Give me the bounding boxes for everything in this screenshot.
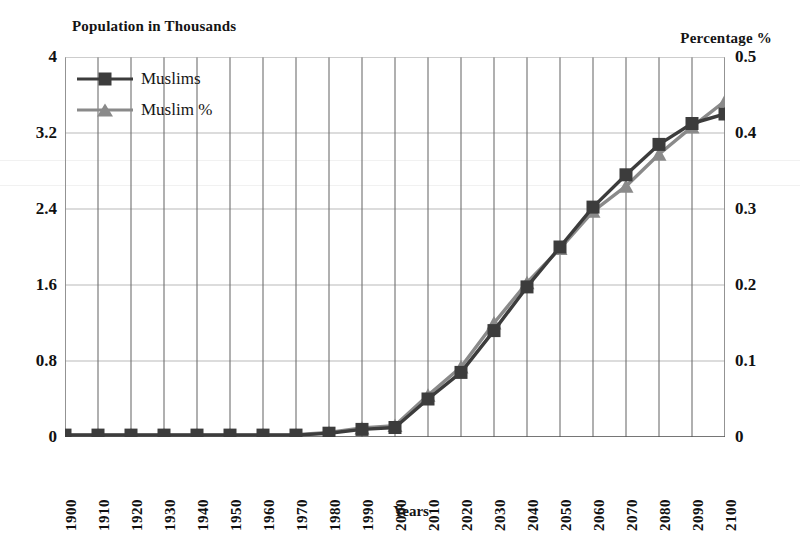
left-tick-label: 1.6 <box>36 275 57 295</box>
right-tick-label: 0.3 <box>735 199 756 219</box>
left-tick-label: 2.4 <box>36 199 57 219</box>
marker-square <box>158 429 171 437</box>
legend-label-muslim-percent: Muslim % <box>141 100 212 120</box>
marker-square <box>488 324 501 337</box>
marker-square <box>686 117 699 130</box>
left-axis-title: Population in Thousands <box>72 18 236 35</box>
marker-square <box>389 421 402 434</box>
left-tick-label: 0.8 <box>36 351 57 371</box>
right-tick-label: 0 <box>735 427 744 447</box>
marker-square <box>356 423 369 436</box>
marker-square <box>554 241 567 254</box>
marker-square <box>521 280 534 293</box>
marker-square <box>653 138 666 151</box>
left-axis-tick-labels: 00.81.62.43.24 <box>0 57 57 437</box>
marker-square <box>92 429 105 437</box>
marker-square <box>587 201 600 214</box>
marker-square <box>257 429 270 437</box>
plot-area: Muslims Muslim % <box>65 57 725 437</box>
marker-square <box>224 429 237 437</box>
chart-container: Population in Thousands Percentage % 00.… <box>0 0 800 549</box>
marker-square <box>620 168 633 181</box>
right-tick-label: 0.5 <box>735 47 756 67</box>
legend-label-muslims: Muslims <box>141 69 201 89</box>
right-axis-tick-labels: 00.10.20.30.40.5 <box>735 57 795 437</box>
x-axis-tick-labels: 1900191019201930194019501960197019801990… <box>65 443 725 501</box>
marker-square <box>719 108 726 121</box>
legend-marker-triangle-icon <box>77 103 133 117</box>
left-tick-label: 0 <box>49 427 58 447</box>
right-tick-label: 0.1 <box>735 351 756 371</box>
marker-square <box>125 429 138 437</box>
right-tick-label: 0.2 <box>735 275 756 295</box>
marker-square <box>290 429 303 437</box>
legend-item-muslim-percent[interactable]: Muslim % <box>77 94 227 125</box>
left-tick-label: 4 <box>49 47 58 67</box>
marker-square <box>455 366 468 379</box>
marker-square <box>65 429 72 437</box>
x-axis-title: Years <box>0 503 800 520</box>
right-axis-title: Percentage % <box>680 30 772 47</box>
chart-legend: Muslims Muslim % <box>77 63 227 125</box>
x-axis-title-text: Years <box>393 503 429 519</box>
marker-square <box>191 429 204 437</box>
right-tick-label: 0.4 <box>735 123 756 143</box>
legend-item-muslims[interactable]: Muslims <box>77 63 227 94</box>
left-tick-label: 3.2 <box>36 123 57 143</box>
legend-marker-square-icon <box>77 72 133 86</box>
marker-square <box>422 393 435 406</box>
marker-square <box>323 427 336 437</box>
